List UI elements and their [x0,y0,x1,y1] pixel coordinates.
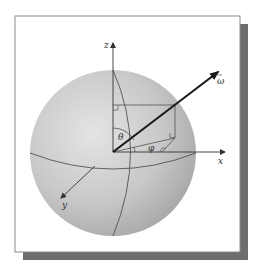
y-axis-label: y [61,200,68,210]
x-axis-label: x [218,156,223,166]
omega-arrow-label: → [217,71,222,78]
phi-label: φ [148,143,155,153]
sphere-rotation-diagram: z x y ω → θ φ [0,0,258,273]
z-axis-label: z [103,40,109,50]
theta-label: θ [118,132,124,142]
